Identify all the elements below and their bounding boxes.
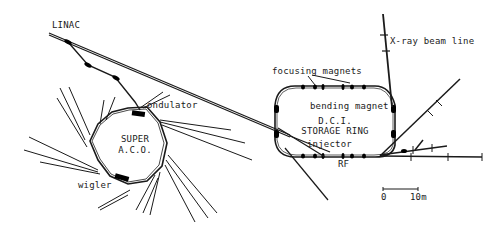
linac-label: LINAC bbox=[52, 21, 80, 30]
scale-end-label: 10m bbox=[410, 193, 427, 202]
dci-label-line1: D.C.I. bbox=[300, 117, 370, 126]
injector-label: injector bbox=[307, 140, 352, 149]
super-aco-injection-line bbox=[64, 38, 140, 110]
rf-magnets bbox=[301, 153, 366, 159]
dci-label-line2: STORAGE RING bbox=[296, 127, 374, 136]
super-aco-label-line1: SUPER bbox=[113, 135, 157, 144]
accelerator-layout-diagram bbox=[0, 0, 503, 231]
xray-beam-line-label: X-ray beam line bbox=[390, 37, 474, 46]
scale-start-label: 0 bbox=[381, 193, 387, 202]
focusing-magnets-label: focusing magnets bbox=[272, 67, 362, 76]
rf-label: RF bbox=[338, 160, 349, 169]
scale-bar bbox=[383, 187, 418, 191]
ondulator-label: ondulator bbox=[147, 101, 198, 110]
bending-magnet-label: bending magnet bbox=[310, 102, 389, 111]
xray-beam-line bbox=[380, 14, 392, 107]
wiggler-label: wigler bbox=[78, 181, 112, 190]
super-aco-label-line2: A.C.O. bbox=[113, 146, 157, 155]
